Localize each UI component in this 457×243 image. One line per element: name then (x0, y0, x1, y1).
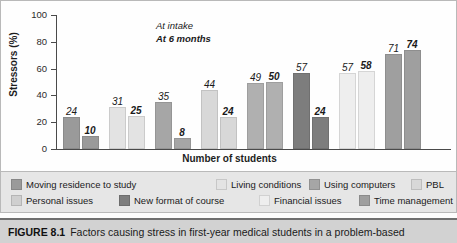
legend-swatch (11, 195, 22, 206)
bar-value-label: 57 (342, 62, 353, 73)
figure-number: FIGURE 8.1 (8, 226, 65, 238)
bar-value-label: 44 (204, 79, 215, 90)
x-axis-label: Number of students (1, 153, 457, 164)
bar-3-intake: 35 (155, 102, 172, 149)
bar-5-intake: 49 (247, 83, 264, 149)
bar-value-label: 31 (112, 96, 123, 107)
legend-label: Personal issues (26, 195, 93, 206)
bar-3-six-months: 8 (174, 138, 191, 149)
chart-legend: Moving residence to studyLiving conditio… (0, 172, 457, 213)
y-tick-label: 60 (21, 63, 47, 74)
legend-swatch (259, 195, 270, 206)
legend-label: Living conditions (231, 179, 301, 190)
bar-value-label: 8 (179, 127, 185, 138)
bar-7-intake: 57 (339, 73, 356, 149)
legend-item[interactable]: Living conditions (216, 176, 301, 192)
bar-7-six-months: 58 (358, 71, 375, 149)
legend-swatch (359, 195, 370, 206)
bar-value-label: 50 (268, 71, 279, 82)
bar-6-six-months: 24 (312, 117, 329, 149)
bar-value-label: 24 (314, 106, 325, 117)
bar-8-six-months: 74 (404, 50, 421, 149)
bar-value-label: 24 (222, 106, 233, 117)
figure-container: Stressors (%) 020406080100 2410312535844… (0, 0, 457, 243)
legend-item[interactable]: Financial issues (259, 192, 342, 208)
legend-label: Financial issues (274, 195, 342, 206)
annotation-line-intake: At intake (156, 19, 211, 32)
legend-label: New format of course (134, 195, 224, 206)
legend-item[interactable]: New format of course (119, 192, 224, 208)
legend-item[interactable]: PBL (411, 176, 444, 192)
legend-label: Moving residence to study (26, 179, 136, 190)
bar-value-label: 35 (158, 91, 169, 102)
y-tick-label: 80 (21, 36, 47, 47)
legend-item[interactable]: Moving residence to study (11, 176, 136, 192)
legend-item[interactable]: Personal issues (11, 192, 93, 208)
chart-panel: Stressors (%) 020406080100 2410312535844… (0, 0, 457, 172)
bar-5-six-months: 50 (266, 82, 283, 149)
legend-swatch (411, 179, 422, 190)
bar-value-label: 58 (360, 60, 371, 71)
bar-4-six-months: 24 (220, 117, 237, 149)
bar-value-label: 24 (66, 106, 77, 117)
y-tick-label: 100 (21, 9, 47, 20)
legend-swatch (11, 179, 22, 190)
legend-label: Using computers (324, 179, 395, 190)
y-tick-label: 40 (21, 89, 47, 100)
legend-item[interactable]: Time management (359, 192, 453, 208)
bar-value-label: 74 (406, 39, 417, 50)
bar-2-six-months: 25 (128, 116, 145, 150)
legend-label: PBL (426, 179, 444, 190)
bar-value-label: 10 (84, 125, 95, 136)
legend-row-1: Moving residence to studyLiving conditio… (11, 176, 446, 192)
bar-value-label: 25 (130, 105, 141, 116)
bar-group: 2410312535844244950572457587174 (56, 15, 451, 149)
legend-swatch (309, 179, 320, 190)
legend-swatch (119, 195, 130, 206)
legend-label: Time management (374, 195, 453, 206)
legend-item[interactable]: Using computers (309, 176, 395, 192)
bar-1-intake: 24 (63, 117, 80, 149)
bar-value-label: 49 (250, 72, 261, 83)
bar-2-intake: 31 (109, 107, 126, 149)
y-tick-label: 20 (21, 116, 47, 127)
annotation-line-six-months: At 6 months (156, 32, 211, 45)
bar-4-intake: 44 (201, 90, 218, 149)
bar-8-intake: 71 (385, 54, 402, 149)
legend-swatch (216, 179, 227, 190)
bar-value-label: 57 (296, 62, 307, 73)
figure-caption: FIGURE 8.1 Factors causing stress in fir… (0, 218, 457, 243)
y-axis-label: Stressors (%) (8, 5, 19, 125)
bar-6-intake: 57 (293, 73, 310, 149)
series-annotation: At intake At 6 months (156, 19, 211, 45)
figure-caption-text: Factors causing stress in first-year med… (70, 226, 404, 238)
legend-row-2: Personal issuesNew format of courseFinan… (11, 192, 446, 208)
bar-1-six-months: 10 (82, 136, 99, 149)
bar-value-label: 71 (388, 43, 399, 54)
x-axis-line (56, 149, 451, 150)
